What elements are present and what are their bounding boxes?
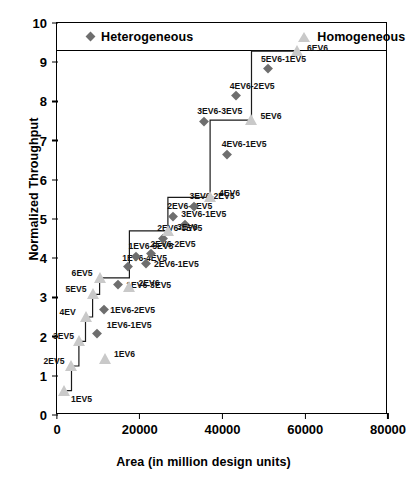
y-tick-label: 9 xyxy=(40,55,47,70)
y-tick-1: 1 xyxy=(40,368,57,383)
y-tick-label: 8 xyxy=(40,94,47,109)
triangle-marker-icon xyxy=(123,281,135,292)
diamond-marker-icon xyxy=(124,262,133,271)
triangle-marker-icon xyxy=(94,272,106,283)
data-point-label-2EV6-1EV5: 2EV6-1EV5 xyxy=(154,259,199,269)
y-tick-label: 0 xyxy=(40,408,47,423)
diamond-marker-icon xyxy=(92,329,101,338)
x-tick-40000: 40000 xyxy=(204,413,240,437)
data-point-label-3EV6: 3EV6 xyxy=(177,222,198,232)
y-tick-mark xyxy=(52,375,58,376)
y-tick-label: 5 xyxy=(40,212,47,227)
x-tick-mark xyxy=(387,413,388,419)
diamond-marker-icon xyxy=(169,211,178,220)
data-point-label-1EV6: 1EV6 xyxy=(114,349,135,359)
data-point-1EV6-2EV5 xyxy=(101,299,108,317)
data-point-5EV5 xyxy=(87,285,99,303)
data-point-2EV6 xyxy=(123,278,135,296)
y-tick-7: 7 xyxy=(40,133,57,148)
data-point-label-4EV6-2EV5: 4EV6-2EV5 xyxy=(230,81,275,91)
x-tick-mark xyxy=(305,413,306,419)
x-axis-title: Area (in million design units) xyxy=(0,455,407,469)
plot-area: Heterogeneous Homogeneous 012345678910 0… xyxy=(56,22,387,414)
data-point-1EV6 xyxy=(99,350,111,368)
triangle-marker-icon xyxy=(65,360,77,371)
data-point-label-2EV6-2EV5: 2EV6-2EV5 xyxy=(151,239,196,249)
data-point-3EV5 xyxy=(73,332,85,350)
y-tick-label: 3 xyxy=(40,290,47,305)
data-point-label-6EV6: 6EV6 xyxy=(307,43,328,53)
data-point-label-5EV6: 5EV6 xyxy=(260,111,281,121)
y-tick-mark xyxy=(52,258,58,259)
x-tick-60000: 60000 xyxy=(287,413,323,437)
data-point-label-1EV6-1EV5: 1EV6-1EV5 xyxy=(107,320,152,330)
y-tick-9: 9 xyxy=(40,55,57,70)
data-point-label-4EV: 4EV xyxy=(60,307,76,317)
y-tick-8: 8 xyxy=(40,94,57,109)
diamond-marker-icon xyxy=(222,150,231,159)
y-tick-10: 10 xyxy=(33,16,57,31)
data-point-label-5EV5: 5EV5 xyxy=(66,284,87,294)
diamond-marker-icon xyxy=(189,202,198,211)
triangle-marker-icon xyxy=(99,353,111,364)
data-point-label-1EV6-2EV5: 1EV6-2EV5 xyxy=(110,305,155,315)
data-point-label-3EV6-1EV5: 3EV6-1EV5 xyxy=(181,209,226,219)
diamond-marker-icon xyxy=(200,116,209,125)
triangle-marker-icon xyxy=(291,45,303,56)
y-tick-label: 10 xyxy=(33,16,47,31)
x-tick-label: 0 xyxy=(53,422,60,437)
data-point-3EV6 xyxy=(162,222,174,240)
y-tick-mark xyxy=(52,179,58,180)
data-point-label-2EV5: 2EV5 xyxy=(43,356,64,366)
y-tick-label: 4 xyxy=(40,251,47,266)
triangle-marker-icon xyxy=(204,191,216,202)
triangle-marker-icon xyxy=(58,385,70,396)
y-tick-mark xyxy=(52,297,58,298)
data-point-label-4EV6-1EV5: 4EV6-1EV5 xyxy=(222,139,267,149)
y-tick-5: 5 xyxy=(40,212,57,227)
y-tick-mark xyxy=(52,218,58,219)
y-tick-3: 3 xyxy=(40,290,57,305)
diamond-marker-icon xyxy=(114,280,123,289)
data-point-2EV5 xyxy=(65,357,77,375)
x-tick-mark xyxy=(222,413,223,419)
data-point-4EV xyxy=(80,308,92,326)
data-point-label-3EV6-3EV5: 3EV6-3EV5 xyxy=(197,106,242,116)
data-point-label-6EV5: 6EV5 xyxy=(72,268,93,278)
diamond-marker-icon xyxy=(100,305,109,314)
data-point-6EV5 xyxy=(94,269,106,287)
diamond-marker-icon xyxy=(263,64,272,73)
triangle-marker-icon xyxy=(245,114,257,125)
x-tick-0: 0 xyxy=(53,413,60,437)
y-tick-4: 4 xyxy=(40,251,57,266)
y-tick-mark xyxy=(52,101,58,102)
x-tick-label: 60000 xyxy=(287,422,323,437)
triangle-marker-icon xyxy=(87,288,99,299)
y-tick-mark xyxy=(52,140,58,141)
y-tick-6: 6 xyxy=(40,172,57,187)
data-point-label-2EV6: 2EV6 xyxy=(138,278,159,288)
data-point-label-3EV5: 3EV5 xyxy=(53,331,74,341)
y-tick-mark xyxy=(52,22,58,23)
x-tick-label: 80000 xyxy=(370,422,406,437)
data-point-label-1EV5: 1EV5 xyxy=(71,394,92,404)
x-tick-20000: 20000 xyxy=(122,413,158,437)
data-point-4EV6 xyxy=(204,188,216,206)
data-point-6EV6 xyxy=(291,42,303,60)
diamond-marker-icon xyxy=(146,249,155,258)
y-tick-label: 2 xyxy=(40,329,47,344)
diamond-marker-icon xyxy=(132,251,141,260)
data-point-1EV5 xyxy=(58,382,70,400)
x-tick-mark xyxy=(139,413,140,419)
data-point-1EV6-1EV5 xyxy=(93,323,100,341)
y-tick-label: 7 xyxy=(40,133,47,148)
x-tick-label: 20000 xyxy=(122,422,158,437)
data-point-5EV6 xyxy=(245,111,257,129)
y-tick-label: 1 xyxy=(40,368,47,383)
y-tick-mark xyxy=(52,62,58,63)
triangle-marker-icon xyxy=(80,311,92,322)
x-tick-80000: 80000 xyxy=(370,413,406,437)
data-point-label-4EV6: 4EV6 xyxy=(219,188,240,198)
x-tick-mark xyxy=(56,413,57,419)
triangle-marker-icon xyxy=(73,335,85,346)
